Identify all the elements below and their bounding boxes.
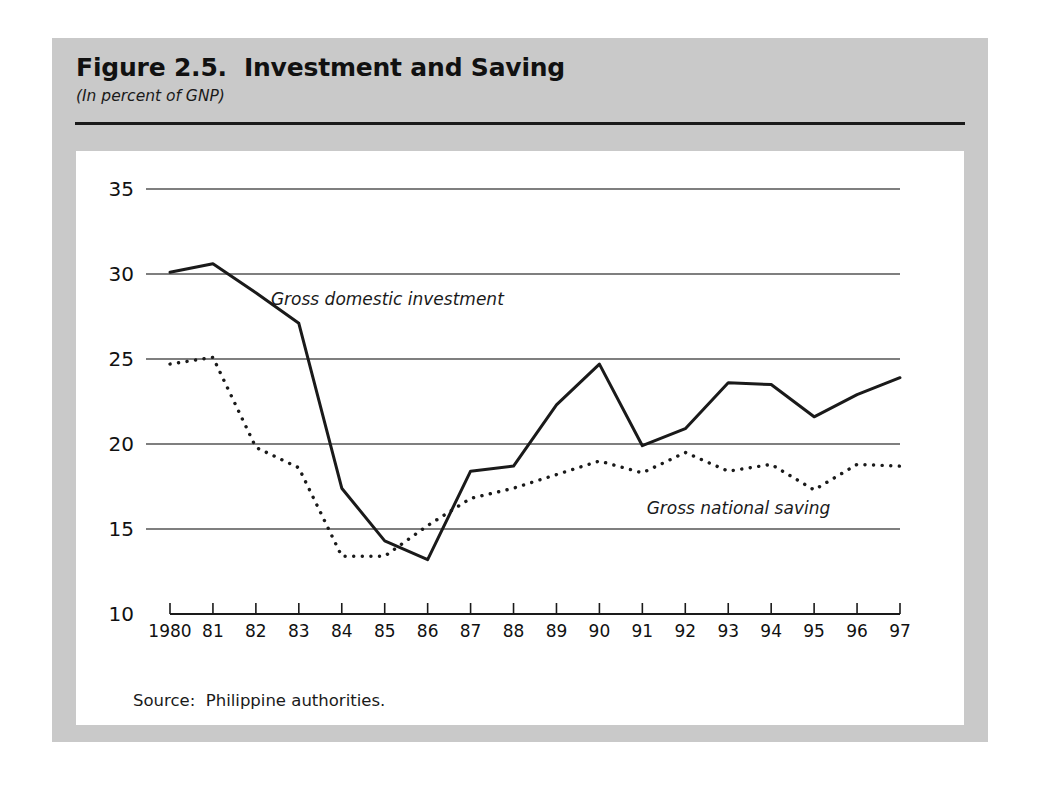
gridlines — [146, 189, 900, 529]
x-tick-1980: 1980 — [148, 621, 191, 641]
y-tick-25: 25 — [109, 347, 134, 371]
x-tick-83: 83 — [288, 621, 310, 641]
figure-subtitle: (In percent of GNP) — [76, 87, 964, 106]
annotation-gross-national-saving: Gross national saving — [647, 498, 831, 518]
figure-header: Figure 2.5. Investment and Saving (In pe… — [76, 54, 964, 105]
x-tick-88: 88 — [503, 621, 525, 641]
x-tick-84: 84 — [331, 621, 353, 641]
x-tick-87: 87 — [460, 621, 482, 641]
line-chart: 101520253035 198081828384858687888990919… — [76, 151, 964, 725]
x-tick-96: 96 — [846, 621, 868, 641]
x-tick-93: 93 — [717, 621, 739, 641]
x-tick-82: 82 — [245, 621, 267, 641]
y-tick-35: 35 — [109, 177, 134, 201]
header-divider — [75, 122, 965, 125]
figure-panel: Figure 2.5. Investment and Saving (In pe… — [52, 38, 988, 742]
x-tick-95: 95 — [803, 621, 825, 641]
series-line-gross-national-saving — [170, 357, 900, 556]
figure-title: Figure 2.5. Investment and Saving — [76, 54, 964, 83]
x-tick-81: 81 — [202, 621, 224, 641]
y-axis-tick-labels: 101520253035 — [109, 177, 134, 626]
x-tick-90: 90 — [589, 621, 611, 641]
x-tick-92: 92 — [674, 621, 696, 641]
annotation-gross-domestic-investment: Gross domestic investment — [271, 289, 505, 309]
series-annotations: Gross domestic investmentGross national … — [271, 289, 831, 518]
x-tick-85: 85 — [374, 621, 396, 641]
x-tick-89: 89 — [546, 621, 568, 641]
plot-card: 101520253035 198081828384858687888990919… — [76, 151, 964, 725]
y-tick-30: 30 — [109, 262, 134, 286]
x-tick-86: 86 — [417, 621, 439, 641]
x-tick-91: 91 — [632, 621, 654, 641]
source-note: Source: Philippine authorities. — [133, 691, 385, 710]
y-tick-10: 10 — [109, 602, 134, 626]
y-tick-20: 20 — [109, 432, 134, 456]
y-tick-15: 15 — [109, 517, 134, 541]
x-tick-97: 97 — [889, 621, 911, 641]
x-tick-94: 94 — [760, 621, 782, 641]
x-axis: 19808182838485868788899091929394959697 — [148, 603, 910, 641]
